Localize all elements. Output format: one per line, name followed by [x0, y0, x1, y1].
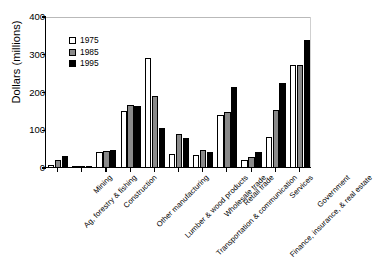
bar-1985: [297, 65, 303, 168]
bar-1975: [96, 152, 102, 168]
legend-swatch-icon: [69, 60, 76, 67]
bar-1975: [145, 58, 151, 168]
bar-1995: [304, 40, 310, 168]
bar-1995: [110, 150, 116, 168]
bar-1975: [290, 65, 296, 168]
bar-1995: [207, 152, 213, 168]
bar-group: [290, 17, 310, 168]
x-tick-mark: [178, 168, 179, 172]
bar-1985: [55, 160, 61, 168]
bar-1975: [241, 160, 247, 168]
bar-1995: [62, 156, 68, 168]
x-tick-mark: [226, 168, 227, 172]
x-tick-mark: [154, 168, 155, 172]
x-tick-mark: [105, 168, 106, 172]
legend-label: 1995: [80, 59, 99, 67]
bar-1995: [159, 128, 165, 168]
bar-1975: [266, 137, 272, 168]
x-tick-mark: [57, 168, 58, 172]
x-tick-mark: [81, 168, 82, 172]
bar-1985: [224, 112, 230, 168]
x-tick-mark: [130, 168, 131, 172]
bar-group: [145, 17, 165, 168]
legend-item: 1995: [69, 59, 99, 68]
bar-1995: [86, 166, 92, 168]
legend-swatch-icon: [69, 49, 76, 56]
chart-legend: 197519851995: [69, 36, 99, 71]
x-tick-mark: [202, 168, 203, 172]
bar-1975: [48, 165, 54, 168]
bar-1985: [127, 105, 133, 168]
bar-1975: [121, 111, 127, 168]
x-tick-mark: [299, 168, 300, 172]
bar-1985: [103, 151, 109, 168]
bar-group: [96, 17, 116, 168]
bar-1985: [248, 157, 254, 168]
bar-1995: [255, 152, 261, 168]
bar-1975: [72, 166, 78, 168]
legend-swatch-icon: [69, 37, 76, 44]
bar-group: [121, 17, 141, 168]
x-tick-mark: [275, 168, 276, 172]
legend-label: 1975: [80, 36, 99, 44]
x-tick-mark: [251, 168, 252, 172]
bar-group: [48, 17, 68, 168]
x-axis-label: Mining: [92, 173, 114, 195]
bar-1985: [273, 110, 279, 169]
bar-group: [193, 17, 213, 168]
bar-group: [266, 17, 286, 168]
bar-1985: [200, 150, 206, 168]
bar-1995: [279, 83, 285, 168]
bar-group: [217, 17, 237, 168]
bar-1975: [193, 155, 199, 168]
legend-label: 1985: [80, 48, 99, 56]
legend-item: 1985: [69, 48, 99, 57]
legend-item: 1975: [69, 36, 99, 45]
y-axis-title: Dollars (millions): [10, 2, 22, 122]
bar-1985: [152, 96, 158, 168]
bar-1995: [183, 138, 189, 168]
bar-group: [241, 17, 261, 168]
bar-group: [169, 17, 189, 168]
bar-1985: [176, 134, 182, 168]
bar-1975: [169, 154, 175, 168]
bar-1995: [231, 87, 237, 168]
bar-1995: [134, 106, 140, 168]
bar-1975: [217, 115, 223, 168]
